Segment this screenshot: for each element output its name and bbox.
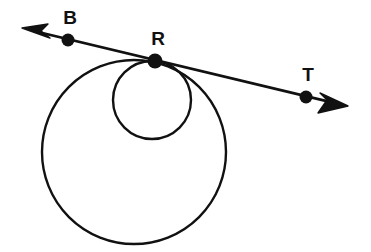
- geometry-figure: B R T: [0, 0, 371, 252]
- geometry-canvas: B R T: [0, 0, 371, 252]
- point-label-r: R: [151, 28, 165, 49]
- arrowhead-right-icon: [318, 93, 348, 113]
- small-circle: [113, 61, 191, 139]
- arrowhead-left-icon: [22, 24, 50, 38]
- large-circle: [42, 60, 226, 244]
- point-t-dot: [300, 91, 313, 104]
- point-label-t: T: [302, 64, 314, 85]
- point-r-dot: [148, 54, 163, 69]
- point-b-dot: [62, 34, 75, 47]
- point-label-b: B: [63, 7, 77, 28]
- tangent-line-segment: [36, 32, 334, 103]
